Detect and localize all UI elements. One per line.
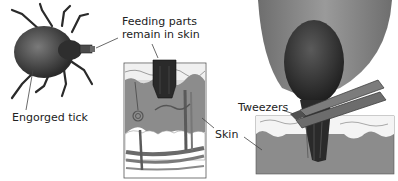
tweezers-removal-illustration xyxy=(244,0,394,174)
engorged-tick-illustration xyxy=(12,4,118,110)
feeding-parts-label-line2: remain in skin xyxy=(122,28,200,41)
feeding-parts-label-line1: Feeding parts xyxy=(122,15,197,28)
tweezers-label: Tweezers xyxy=(238,101,288,114)
engorged-tick-label: Engorged tick xyxy=(12,111,88,124)
skin-cross-section xyxy=(124,44,214,178)
skin-label: Skin xyxy=(215,128,238,141)
